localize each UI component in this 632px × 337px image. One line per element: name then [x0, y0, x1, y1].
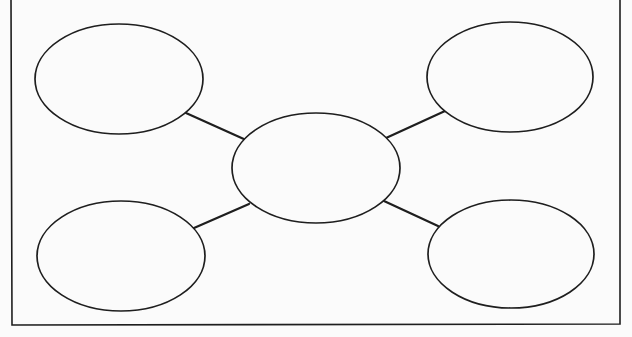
- bubble-center: [232, 113, 400, 223]
- ellipse-bottom-right: [428, 200, 594, 308]
- bubble-bottom-left: [37, 201, 205, 311]
- ellipse-bottom-left: [37, 201, 205, 311]
- ellipse-center: [232, 113, 400, 223]
- bubble-bottom-right: [428, 200, 594, 308]
- ellipse-top-left: [35, 24, 203, 134]
- bubble-top-right: [427, 22, 593, 132]
- ellipse-top-right: [427, 22, 593, 132]
- concept-map-diagram: [0, 0, 632, 337]
- bubble-top-left: [35, 24, 203, 134]
